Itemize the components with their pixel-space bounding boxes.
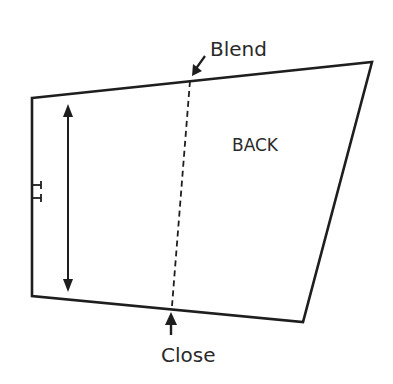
close-arrow-icon — [165, 312, 177, 335]
piece-name-label: BACK — [232, 135, 279, 155]
notch-marks-icon — [32, 181, 41, 202]
grainline-arrow-icon — [63, 104, 73, 292]
close-label: Close — [161, 343, 215, 367]
pattern-diagram: Blend Close BACK — [0, 0, 393, 384]
pattern-piece-outline — [32, 62, 372, 322]
dashed-seam-line — [172, 81, 190, 306]
blend-label: Blend — [210, 37, 267, 61]
blend-arrow-icon — [192, 56, 205, 76]
